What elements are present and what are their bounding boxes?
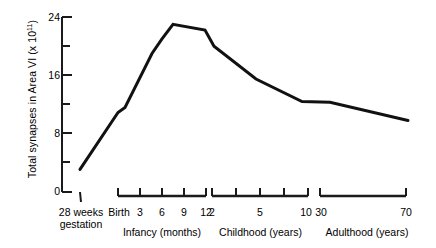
plot-area: [0, 0, 436, 248]
data-line-total-synapses: [80, 24, 408, 169]
synapse-density-chart: Total synapses in Area VI (x 1011) 24 16…: [0, 0, 436, 248]
x-axis-segment-gestation: [80, 192, 81, 202]
